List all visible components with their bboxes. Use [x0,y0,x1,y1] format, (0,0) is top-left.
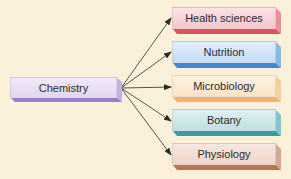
target-box-health-sciences: Health sciences [172,7,282,35]
source-label: Chemistry [10,77,117,98]
target-label: Microbiology [172,75,276,97]
target-box-nutrition: Nutrition [172,41,282,69]
target-box-microbiology: Microbiology [172,75,282,103]
arrow-to-botany [121,88,171,121]
target-box-physiology: Physiology [172,143,282,171]
target-box-botany: Botany [172,109,282,137]
target-label: Botany [172,109,276,131]
target-label: Health sciences [172,7,276,29]
arrow-to-physiology [121,88,171,155]
source-box-chemistry: Chemistry [10,77,123,103]
target-label: Physiology [172,143,276,165]
diagram-canvas: Chemistry Health sciences Nutrition Micr… [0,0,291,179]
arrow-to-health-sciences [121,18,171,88]
target-label: Nutrition [172,41,276,63]
arrow-to-microbiology [121,87,171,88]
arrow-to-nutrition [121,52,171,88]
